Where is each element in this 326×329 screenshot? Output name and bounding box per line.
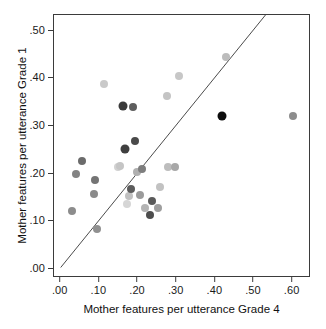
y-axis-tick-mark bbox=[48, 173, 53, 174]
x-axis-tick-label: .30 bbox=[168, 284, 184, 296]
data-point bbox=[175, 72, 183, 80]
y-axis-tick-label: .30 bbox=[29, 120, 45, 131]
data-point bbox=[136, 191, 144, 199]
data-point bbox=[78, 157, 86, 165]
data-point bbox=[127, 185, 135, 193]
data-point bbox=[218, 112, 227, 121]
x-axis-tick: .60 bbox=[284, 277, 300, 296]
x-axis-tick-label: .10 bbox=[91, 284, 107, 296]
data-point bbox=[118, 101, 127, 110]
data-point bbox=[68, 207, 76, 215]
x-axis-tick-label: .50 bbox=[245, 284, 261, 296]
x-axis-tick-mark bbox=[98, 277, 99, 282]
data-point bbox=[90, 190, 98, 198]
y-axis-title: Mother features per utterance Grade 1 bbox=[14, 14, 30, 277]
data-point bbox=[163, 92, 171, 100]
data-point bbox=[146, 211, 154, 219]
x-axis-tick-mark bbox=[291, 277, 292, 282]
data-point bbox=[171, 163, 179, 171]
x-axis-tick: .50 bbox=[245, 277, 261, 296]
x-axis-tick-mark bbox=[175, 277, 176, 282]
data-point bbox=[222, 53, 230, 61]
x-axis-tick-label: .00 bbox=[52, 284, 68, 296]
y-axis-tick-label: .10 bbox=[29, 215, 45, 226]
y-axis-tick-label: .20 bbox=[29, 168, 45, 179]
x-axis-tick-mark bbox=[214, 277, 215, 282]
data-point bbox=[289, 112, 297, 120]
y-axis-tick-label: .00 bbox=[29, 263, 45, 274]
y-axis-tick-mark bbox=[48, 125, 53, 126]
data-point bbox=[116, 162, 124, 170]
x-axis-tick: .30 bbox=[168, 277, 184, 296]
x-axis-tick: .00 bbox=[52, 277, 68, 296]
x-axis-tick-mark bbox=[137, 277, 138, 282]
scatter-plot-figure: .00.10.20.30.40.50 .00.10.20.30.40.50.60… bbox=[0, 0, 326, 329]
data-point bbox=[131, 137, 139, 145]
data-point bbox=[72, 170, 80, 178]
data-point bbox=[129, 103, 137, 111]
data-point bbox=[93, 225, 101, 233]
x-axis-tick-label: .20 bbox=[129, 284, 145, 296]
x-axis-tick: .40 bbox=[207, 277, 223, 296]
x-axis-tick-mark bbox=[252, 277, 253, 282]
data-point bbox=[91, 176, 99, 184]
data-points-layer bbox=[54, 15, 309, 276]
y-axis-tick-mark bbox=[48, 220, 53, 221]
data-point bbox=[120, 144, 129, 153]
data-point bbox=[154, 204, 162, 212]
y-axis-tick-mark bbox=[48, 77, 53, 78]
x-axis-tick: .10 bbox=[91, 277, 107, 296]
y-axis-tick-mark bbox=[48, 30, 53, 31]
x-axis-title: Mother features per utterance Grade 4 bbox=[53, 303, 310, 316]
y-axis-tick-label: .50 bbox=[29, 25, 45, 36]
data-point bbox=[138, 165, 146, 173]
y-axis-tick-mark bbox=[48, 268, 53, 269]
x-axis-tick-label: .40 bbox=[207, 284, 223, 296]
data-point bbox=[100, 80, 108, 88]
x-axis-tick-mark bbox=[59, 277, 60, 282]
data-point bbox=[156, 183, 164, 191]
x-axis-tick-label: .60 bbox=[284, 284, 300, 296]
y-axis-tick-label: .40 bbox=[29, 72, 45, 83]
data-point bbox=[123, 200, 131, 208]
x-axis-tick: .20 bbox=[129, 277, 145, 296]
plot-area bbox=[53, 14, 310, 277]
